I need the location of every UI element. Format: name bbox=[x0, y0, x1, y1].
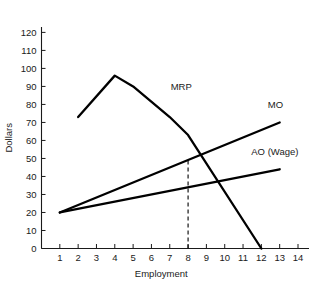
y-axis-tick-label: 120 bbox=[21, 27, 37, 38]
series-line-ao-wage bbox=[60, 169, 280, 212]
x-axis-tick-label: 1 bbox=[57, 252, 62, 263]
series-line-mo bbox=[60, 122, 280, 212]
y-axis-tick-label: 40 bbox=[26, 171, 37, 182]
x-axis-tick-label: 9 bbox=[204, 252, 209, 263]
y-axis-tick-label: 70 bbox=[26, 117, 37, 128]
chart-container: 0102030405060708090100110120 12345678910… bbox=[0, 0, 318, 284]
series-label-mrp: MRP bbox=[171, 81, 192, 92]
x-axis-title: Employment bbox=[135, 268, 188, 279]
y-axis-tick-label: 0 bbox=[31, 243, 36, 254]
economics-line-chart: 0102030405060708090100110120 12345678910… bbox=[0, 0, 318, 284]
chart-series-labels: MRPMOAO (Wage) bbox=[171, 81, 299, 157]
x-axis-tick-label: 7 bbox=[167, 252, 172, 263]
x-axis-tick-label: 4 bbox=[112, 252, 117, 263]
chart-series-group bbox=[60, 76, 280, 249]
x-axis-tick-label: 5 bbox=[130, 252, 135, 263]
series-label-ao-wage: AO (Wage) bbox=[251, 146, 298, 157]
x-axis-tick-label: 6 bbox=[149, 252, 154, 263]
y-axis-tick-label: 110 bbox=[21, 45, 36, 56]
x-axis-tick-label: 3 bbox=[94, 252, 99, 263]
y-axis-tick-label: 100 bbox=[21, 63, 37, 74]
y-axis-tick-label: 20 bbox=[26, 207, 37, 218]
x-axis-tick-label: 2 bbox=[75, 252, 80, 263]
y-axis-tick-label: 50 bbox=[26, 153, 37, 164]
x-axis-tick-label: 12 bbox=[256, 252, 267, 263]
x-axis-tick-label: 13 bbox=[274, 252, 285, 263]
series-line-mrp bbox=[78, 76, 261, 249]
y-axis-tick-label: 10 bbox=[26, 225, 37, 236]
y-axis-tick-label: 90 bbox=[26, 81, 37, 92]
series-label-mo: MO bbox=[268, 99, 283, 110]
x-axis-tick-label: 10 bbox=[219, 252, 230, 263]
x-axis: 1234567891011121314 bbox=[42, 244, 310, 263]
y-axis-tick-label: 60 bbox=[26, 135, 37, 146]
x-axis-tick-label: 8 bbox=[185, 252, 190, 263]
y-axis-title: Dollars bbox=[3, 123, 14, 153]
y-axis: 0102030405060708090100110120 bbox=[21, 27, 46, 254]
x-axis-tick-label: 11 bbox=[238, 252, 248, 263]
y-axis-tick-label: 80 bbox=[26, 99, 37, 110]
x-axis-tick-label: 14 bbox=[293, 252, 304, 263]
y-axis-tick-label: 30 bbox=[26, 189, 37, 200]
